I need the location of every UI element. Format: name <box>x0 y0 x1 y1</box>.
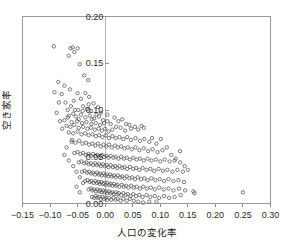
data-point <box>128 123 131 126</box>
data-point <box>163 158 166 161</box>
data-point <box>72 164 75 167</box>
data-point <box>157 196 160 199</box>
data-point <box>65 146 68 149</box>
data-point <box>76 108 79 111</box>
data-point <box>63 119 66 122</box>
data-point <box>87 143 90 146</box>
data-point <box>162 188 165 191</box>
data-point <box>84 116 87 119</box>
data-point <box>60 127 63 130</box>
data-point <box>182 180 185 183</box>
data-point <box>241 191 244 194</box>
data-point <box>55 111 58 114</box>
data-point <box>150 177 153 180</box>
data-point <box>128 165 131 168</box>
data-point <box>155 142 158 145</box>
data-point <box>138 139 141 142</box>
data-point <box>161 169 164 172</box>
data-point <box>119 193 122 196</box>
data-point <box>66 108 69 111</box>
data-point <box>57 101 60 104</box>
x-tick-label: 0.15 <box>179 210 197 220</box>
data-point <box>84 132 87 135</box>
data-point <box>161 149 164 152</box>
data-point <box>86 127 89 130</box>
data-point <box>142 159 145 162</box>
data-point <box>156 150 159 153</box>
data-point <box>132 199 135 202</box>
data-point <box>106 120 109 123</box>
data-point <box>91 163 94 166</box>
data-point <box>136 176 139 179</box>
data-point <box>150 136 153 139</box>
data-point <box>93 128 96 131</box>
data-point <box>186 168 189 171</box>
data-point <box>76 47 79 50</box>
data-point <box>128 158 131 161</box>
data-point <box>72 132 75 135</box>
data-point <box>138 187 141 190</box>
data-point <box>68 88 71 91</box>
data-point <box>100 129 103 132</box>
data-point <box>70 120 73 123</box>
data-point <box>167 196 170 199</box>
data-point <box>148 200 151 203</box>
data-point <box>87 134 90 137</box>
data-point <box>116 146 119 149</box>
plot-frame <box>23 17 271 204</box>
data-point <box>159 160 162 163</box>
data-point <box>123 147 126 150</box>
data-point <box>142 147 145 150</box>
data-point <box>181 170 184 173</box>
x-tick-label: −0.15 <box>11 210 34 220</box>
data-point <box>107 136 110 139</box>
data-point <box>86 78 89 81</box>
data-point <box>58 120 61 123</box>
data-point <box>141 195 144 198</box>
data-point <box>53 91 56 94</box>
x-tick-label: 0.05 <box>124 210 142 220</box>
data-point <box>107 130 110 133</box>
data-point <box>110 146 113 149</box>
data-point <box>94 121 97 124</box>
data-point <box>81 125 84 128</box>
data-point <box>153 169 156 172</box>
data-point <box>118 185 121 188</box>
data-point <box>67 54 70 57</box>
data-point <box>122 137 125 140</box>
data-point <box>141 166 144 169</box>
x-tick-label: 0.20 <box>207 210 225 220</box>
data-point <box>116 174 119 177</box>
data-point <box>123 177 126 180</box>
data-point <box>170 153 173 156</box>
x-tick-label: 0.00 <box>96 210 114 220</box>
data-point <box>138 193 141 196</box>
data-point <box>138 168 141 171</box>
data-point <box>63 153 66 156</box>
x-tick-label: 0.30 <box>262 210 280 220</box>
data-point <box>83 74 86 77</box>
data-point <box>81 142 84 145</box>
data-point <box>84 141 87 144</box>
data-point <box>176 168 179 171</box>
plot-canvas: −0.15−0.10−0.050.000.050.100.150.200.250… <box>0 0 288 241</box>
data-point <box>168 160 171 163</box>
x-axis-title: 人口の変化率 <box>117 227 177 238</box>
data-point <box>106 113 109 116</box>
data-point <box>91 133 94 136</box>
data-point <box>146 178 149 181</box>
data-point <box>172 179 175 182</box>
data-point <box>97 134 100 137</box>
data-point <box>123 129 126 132</box>
data-point <box>149 195 152 198</box>
data-point <box>94 134 97 137</box>
data-point <box>166 168 169 171</box>
data-point <box>142 126 145 129</box>
data-point <box>77 126 80 129</box>
data-point <box>114 136 117 139</box>
data-point <box>76 91 79 94</box>
data-point <box>149 167 152 170</box>
data-point <box>63 84 66 87</box>
data-point <box>79 113 82 116</box>
data-point <box>132 156 135 159</box>
